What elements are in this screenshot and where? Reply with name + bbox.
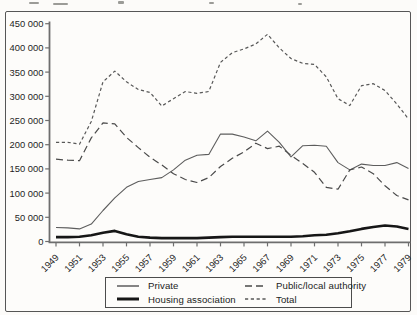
x-tick-label: 1955 [109,252,132,275]
x-tick-label: 1977 [367,252,390,275]
y-tick-label: 250 000 [10,115,44,126]
y-tick-label: 0 [38,236,43,247]
legend-item-housing-association: Housing association [116,294,244,305]
legend-swatch-dashed [244,282,268,290]
line-chart: 050 000100 000150 000200 000250 000300 0… [0,0,417,315]
legend-label: Private [148,280,179,291]
legend-swatch-thick-solid [116,295,140,303]
x-tick-label: 1951 [62,252,85,275]
series-line-total [56,34,409,144]
x-tick-label: 1963 [203,252,226,275]
x-tick-label: 1949 [38,252,61,275]
legend-label: Total [276,294,297,305]
legend-item-total: Total [244,294,366,305]
y-tick-label: 200 000 [10,139,44,150]
y-tick-label: 150 000 [10,163,44,174]
x-tick-label: 1969 [273,252,296,275]
y-tick-label: 50 000 [15,212,44,223]
x-tick-label: 1957 [132,252,155,275]
x-tick-label: 1965 [226,252,249,275]
x-tick-label: 1961 [179,252,202,275]
x-tick-label: 1959 [156,252,179,275]
x-tick-label: 1971 [297,252,320,275]
y-tick-label: 450 000 [10,18,44,29]
legend-swatch-fine-dashed [244,295,268,303]
x-tick-label: 1979 [391,252,414,275]
x-tick-label: 1973 [320,252,343,275]
y-tick-label: 300 000 [10,91,44,102]
series-line-housing-association [56,226,409,239]
x-tick-label: 1953 [85,252,108,275]
x-tick-label: 1975 [344,252,367,275]
legend-item-public-local-authority: Public/local authority [244,280,366,291]
series-line-private [56,131,409,229]
legend-item-private: Private [116,280,244,291]
x-tick-label: 1967 [250,252,273,275]
chart-legend: PrivateHousing associationPublic/local a… [105,277,352,308]
y-tick-label: 100 000 [10,188,44,199]
y-tick-label: 350 000 [10,67,44,78]
legend-label: Housing association [148,294,236,305]
y-tick-label: 400 000 [10,42,44,53]
legend-label: Public/local authority [276,280,366,291]
scanned-figure-page: 050 000100 000150 000200 000250 000300 0… [0,0,417,315]
legend-swatch-thin-solid [116,282,140,290]
